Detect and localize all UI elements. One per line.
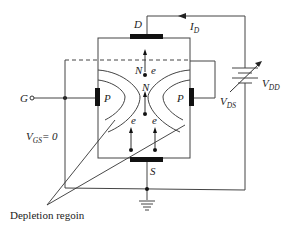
gate-label: G <box>20 92 28 104</box>
source-node <box>145 187 149 191</box>
drain-wire <box>147 16 245 68</box>
supply-label: VDD <box>262 77 280 92</box>
vds-label: VDS <box>220 95 236 110</box>
carrier-left: e <box>131 114 136 126</box>
source-label: S <box>150 165 156 177</box>
source-plate <box>130 157 163 162</box>
depletion-pointers <box>47 120 185 205</box>
common-wire <box>65 188 245 190</box>
current-arrow-icon <box>178 13 186 19</box>
jfet-diagram: D S G N N P P e e e ID VDD VDS VGS= 0 De… <box>0 0 290 233</box>
channel-label-top: N <box>134 64 143 76</box>
gate-plate-left <box>95 88 100 106</box>
channel-label-mid: N <box>141 81 150 93</box>
depletion-annotation: Depletion regoin <box>10 209 85 221</box>
carrier-top: e <box>151 64 156 76</box>
drain-plate <box>130 34 163 39</box>
gate-region-right: P <box>176 92 184 104</box>
gate-region-left: P <box>103 92 111 104</box>
battery-icon <box>230 61 262 92</box>
current-label: ID <box>189 20 200 35</box>
drain-label: D <box>133 18 142 30</box>
gate-plate-right <box>189 88 194 106</box>
carrier-right: e <box>152 114 157 126</box>
ground-icon <box>139 201 155 210</box>
vgs-label: VGS= 0 <box>26 130 58 145</box>
gate-terminal-icon <box>30 96 34 100</box>
